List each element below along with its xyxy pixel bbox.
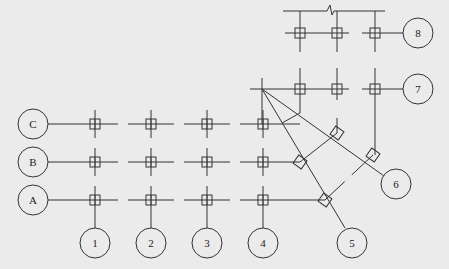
break-line (283, 5, 385, 15)
axis-labels: C B A 1 2 3 4 5 6 7 8 (29, 27, 421, 249)
axis-lines (48, 5, 403, 228)
structural-grid-diagram: C B A 1 2 3 4 5 6 7 8 (0, 0, 449, 269)
axis-label-2: 2 (148, 237, 154, 249)
axis-label-a: A (29, 194, 37, 206)
arc-segment (282, 113, 300, 123)
axis-label-3: 3 (204, 237, 210, 249)
centerline-gaps (95, 33, 375, 200)
axis-label-b: B (29, 156, 36, 168)
skew-connector-1 (300, 133, 337, 162)
axis-label-7: 7 (415, 83, 421, 95)
axis-label-1: 1 (92, 237, 98, 249)
axis-label-4: 4 (260, 237, 266, 249)
axis-label-5: 5 (349, 237, 355, 249)
grid-drawing: C B A 1 2 3 4 5 6 7 8 (0, 0, 449, 269)
axis-label-6: 6 (393, 178, 399, 190)
axis-label-c: C (29, 118, 36, 130)
axis-label-8: 8 (415, 27, 421, 39)
axis-line-6 (262, 89, 384, 176)
axis-bubbles (18, 18, 433, 258)
